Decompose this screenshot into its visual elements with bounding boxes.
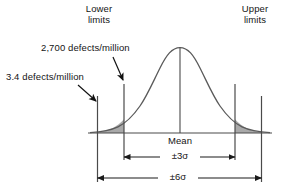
lower-limits-line-1: Lower [68,3,130,14]
lower-limits-label: Lower limits [68,3,130,25]
mean-label: Mean [150,135,210,146]
six-sigma-distribution-svg [0,0,289,196]
upper-limits-label: Upper limits [228,3,282,25]
sigma-6-label: ±6σ [158,171,198,182]
callout-label-2700-defects: 2,700 defects/million [41,42,130,53]
lower-limits-line-2: limits [68,14,130,25]
figure-canvas: Lower limits Upper limits 2,700 defects/… [0,0,289,196]
upper-limits-line-1: Upper [228,3,282,14]
callout-arrow-34 [78,85,96,101]
sigma-3-label: ±3σ [160,150,200,161]
callout-arrow-2700 [113,57,123,80]
callout-label-34-defects: 3.4 defects/million [6,71,84,82]
upper-limits-line-2: limits [228,14,282,25]
